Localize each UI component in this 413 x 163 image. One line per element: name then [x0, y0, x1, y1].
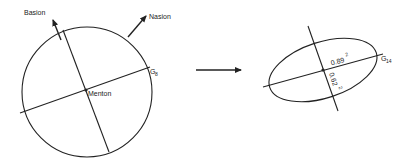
nasion-label: Nasion	[149, 13, 171, 20]
right-ellipse-figure: 0.89 2 0.62 2 G 14	[261, 26, 392, 114]
left-circle	[22, 27, 152, 157]
svg-text:2: 2	[344, 51, 348, 58]
svg-text:2: 2	[338, 86, 345, 91]
ellipse-center-point	[321, 68, 324, 71]
basion-arrow-shaft	[53, 20, 61, 40]
left-circle-figure: Basion Nasion Menton G 8	[20, 9, 171, 157]
g14-subscript: 14	[386, 58, 392, 64]
g8-subscript: 8	[155, 71, 158, 77]
svg-text:0.62: 0.62	[328, 72, 339, 87]
diagram-canvas: Basion Nasion Menton G 8 0.89 2 0.62 2 G…	[0, 0, 413, 163]
basion-label: Basion	[24, 9, 46, 16]
nasion-arrow	[128, 16, 146, 37]
menton-label: Menton	[88, 90, 111, 97]
